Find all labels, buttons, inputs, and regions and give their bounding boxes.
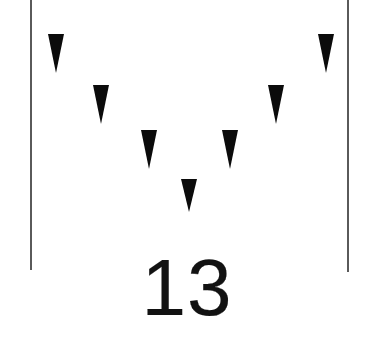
triangle-down-icon-4 — [181, 179, 197, 212]
triangle-down-icon-3 — [141, 130, 157, 169]
triangle-down-icon-6 — [268, 85, 284, 124]
left-vertical-rule — [30, 0, 32, 270]
triangle-down-icon-2 — [93, 85, 109, 124]
right-vertical-rule — [347, 0, 349, 272]
triangle-down-icon-5 — [222, 130, 238, 169]
triangle-down-icon-1 — [48, 34, 64, 73]
figure-number-caption: 13 — [0, 248, 374, 328]
triangle-down-icon-7 — [318, 34, 334, 73]
figure-container: 13 — [0, 0, 374, 337]
